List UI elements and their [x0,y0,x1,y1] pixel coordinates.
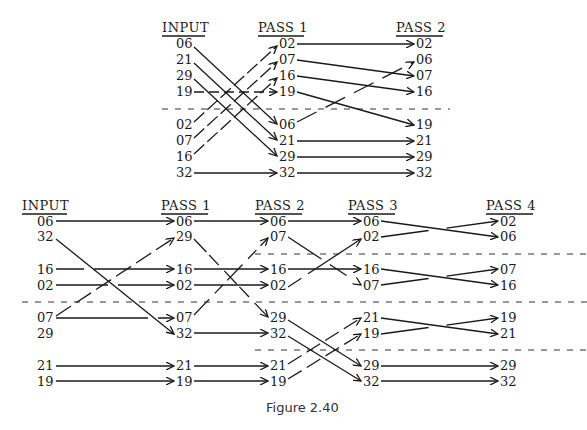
top-pass2-6: 29 [416,149,433,164]
bottom-input-7: 19 [37,374,54,389]
bottom-pass3-6: 29 [363,358,380,373]
bottom-input-3: 02 [37,278,54,293]
top-input-4: 02 [176,117,193,132]
bottom-pass4-7: 32 [500,374,517,389]
bottom-pass3-7: 32 [363,374,380,389]
bottom-header-pass3: PASS 3 [348,198,398,213]
top-input-0: 06 [176,36,193,51]
bottom-pass4-2: 07 [500,262,517,277]
merge-network-diagram: INPUT PASS 1 PASS 2 06 21 29 19 02 07 16… [0,0,587,430]
bottom-stage1-arrows [56,221,174,334]
bottom-pass1-4: 07 [176,310,193,325]
bottom-input-5: 29 [37,326,54,341]
top-input-5: 07 [176,133,193,148]
top-input-6: 16 [176,149,193,164]
top-pass1-5: 21 [279,133,296,148]
top-header-pass2: PASS 2 [396,20,446,35]
top-input-2: 29 [176,68,193,83]
top-pass1-3: 19 [279,84,296,99]
bottom-pass1-2: 16 [176,262,193,277]
bottom-pass4-4: 19 [500,310,517,325]
bottom-input-2: 16 [37,262,54,277]
bottom-header-input: INPUT [22,198,69,213]
bottom-pass4-1: 06 [500,229,517,244]
top-pass1-0: 02 [279,36,296,51]
top-header-pass1: PASS 1 [258,20,308,35]
top-pass2-7: 32 [416,165,433,180]
bottom-pass3-4: 21 [363,310,380,325]
top-pass2-3: 16 [416,84,433,99]
bottom-pass4-0: 02 [500,214,517,229]
bottom-stage2-arrows [194,221,268,381]
bottom-pass2-1: 07 [270,229,287,244]
top-input-3: 19 [176,84,193,99]
top-pass2-4: 19 [416,117,433,132]
bottom-pass4-6: 29 [500,358,517,373]
bottom-header-pass1: PASS 1 [161,198,211,213]
top-input-1: 21 [176,52,193,67]
bottom-stage1-straight [56,366,174,381]
bottom-pass3-2: 16 [363,262,380,277]
bottom-pass3-3: 07 [363,278,380,293]
top-pass2-2: 07 [416,68,433,83]
top-pass2-1: 06 [416,52,433,67]
bottom-pass2-6: 21 [270,358,287,373]
bottom-input-1: 32 [37,229,54,244]
bottom-pass3-1: 02 [363,229,380,244]
bottom-pass1-7: 19 [176,374,193,389]
top-pass2-0: 02 [416,36,433,51]
bottom-input-0: 06 [37,214,54,229]
bottom-pass3-0: 06 [363,214,380,229]
top-pass1-4: 06 [279,117,296,132]
top-pass1-7: 32 [279,165,296,180]
bottom-pass2-5: 32 [270,326,287,341]
bottom-pass2-0: 06 [270,214,287,229]
bottom-stage4-arrows [381,221,498,381]
bottom-input-6: 21 [37,358,54,373]
bottom-pass1-6: 21 [176,358,193,373]
top-header-input: INPUT [162,20,209,35]
bottom-header-pass4: PASS 4 [486,198,536,213]
bottom-pass2-3: 02 [270,278,287,293]
bottom-pass1-3: 02 [176,278,193,293]
bottom-pass2-4: 29 [270,310,287,325]
bottom-pass4-3: 16 [500,278,517,293]
top-pass1-6: 29 [279,149,296,164]
bottom-pass2-2: 16 [270,262,287,277]
top-input-7: 32 [176,165,193,180]
top-pass1-1: 07 [279,52,296,67]
top-network: INPUT PASS 1 PASS 2 06 21 29 19 02 07 16… [162,20,450,180]
bottom-input-4: 07 [37,310,54,325]
bottom-pass1-0: 06 [176,214,193,229]
bottom-pass4-5: 21 [500,326,517,341]
figure-caption: Figure 2.40 [266,400,339,415]
bottom-network: INPUT PASS 1 PASS 2 PASS 3 PASS 4 06 32 … [22,198,587,389]
top-pass2-5: 21 [416,133,433,148]
bottom-pass1-5: 32 [176,326,193,341]
bottom-header-pass2: PASS 2 [255,198,305,213]
bottom-pass1-1: 29 [176,229,193,244]
top-pass1-2: 16 [279,68,296,83]
bottom-pass2-7: 19 [270,374,287,389]
bottom-pass3-5: 19 [363,326,380,341]
bottom-stage3-arrows [288,221,361,381]
